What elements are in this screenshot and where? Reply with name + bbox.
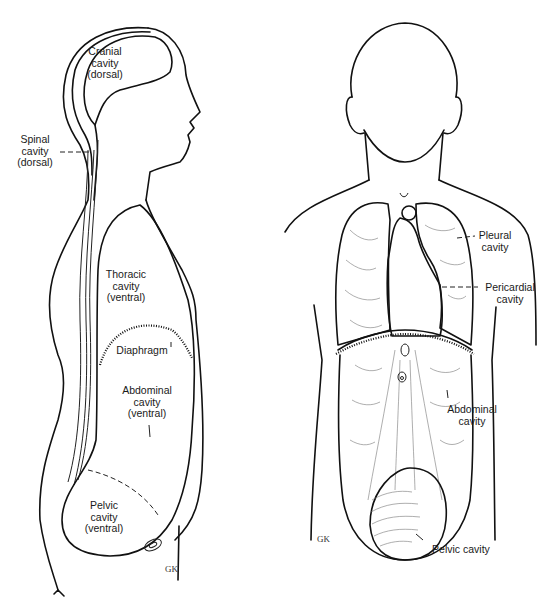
label-spinal-cavity: Spinal cavity (dorsal) — [10, 134, 60, 169]
label-pelvic-cavity-lateral: Pelvic cavity (ventral) — [78, 500, 130, 535]
label-pelvic-cavity-anterior: Pelvic cavity — [421, 544, 501, 556]
anterior-leader-lines — [416, 236, 478, 540]
label-abdominal-cavity-lateral: Abdominal cavity (ventral) — [116, 385, 178, 420]
lateral-spinal-canal — [68, 140, 98, 485]
artist-signature-anterior: GK — [317, 534, 330, 544]
label-abdominal-cavity-anterior: Abdominal cavity — [442, 404, 502, 427]
label-pleural-cavity: Pleural cavity — [474, 230, 516, 253]
label-pericardial-cavity: Pericardial cavity — [480, 282, 540, 305]
label-cranial-cavity: Cranial cavity (dorsal) — [85, 46, 125, 81]
anterior-diaphragm — [336, 330, 474, 354]
body-cavities-diagram: GK — [0, 0, 559, 613]
anterior-lungs — [336, 203, 473, 345]
label-thoracic-cavity: Thoracic cavity (ventral) — [100, 269, 152, 304]
artist-signature: GK — [165, 564, 178, 574]
label-diaphragm: Diaphragm — [114, 345, 170, 357]
anterior-heart — [387, 206, 442, 336]
anterior-abdominopelvic-cavity — [339, 344, 473, 560]
